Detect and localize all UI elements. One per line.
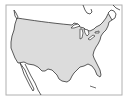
- map-container: [0, 0, 124, 102]
- us-map: [0, 0, 124, 102]
